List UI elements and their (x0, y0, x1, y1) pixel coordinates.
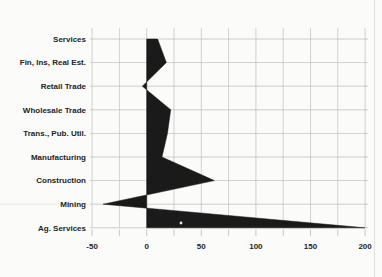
funnel-area-chart: ServicesFin, Ins, Real Est.Retail TradeW… (0, 0, 382, 277)
category-label: Construction (36, 176, 86, 185)
category-label: Trans., Pub. Util. (23, 129, 86, 138)
white-speck-artifact (180, 222, 183, 225)
x-axis-tick-label: 100 (249, 242, 263, 251)
category-label: Wholesale Trade (23, 106, 87, 115)
category-label: Mining (60, 200, 86, 209)
category-label: Retail Trade (41, 82, 87, 91)
category-label: Fin, Ins, Real Est. (20, 58, 86, 67)
x-axis-tick-label: 150 (304, 242, 318, 251)
chart-canvas: ServicesFin, Ins, Real Est.Retail TradeW… (0, 0, 382, 277)
category-label: Services (53, 35, 86, 44)
category-label: Manufacturing (31, 153, 86, 162)
x-axis-tick-label: -50 (86, 242, 98, 251)
x-axis-tick-label: 200 (358, 242, 372, 251)
x-axis-tick-label: 0 (144, 242, 149, 251)
category-label: Ag. Services (38, 224, 87, 233)
x-axis-tick-label: 50 (197, 242, 206, 251)
